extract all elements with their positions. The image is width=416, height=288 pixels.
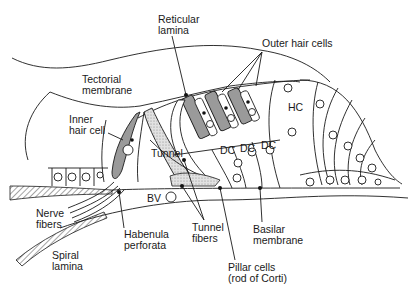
inner-sulcus-cells <box>48 168 108 186</box>
label-pillar-cells: Pillar cells (rod of Corti) <box>228 262 287 284</box>
label-dc-3: DC <box>261 140 276 151</box>
label-bv: BV <box>147 193 161 204</box>
label-tunnel: Tunnel <box>151 148 183 159</box>
label-outer-hair-cells: Outer hair cells <box>262 38 333 49</box>
label-inner-hair-cell: Inner hair cell <box>69 114 105 136</box>
label-dc-1: DC <box>220 145 235 156</box>
label-reticular-lamina: Reticular lamina <box>158 14 199 36</box>
label-habenula-perforata: Habenula perforata <box>124 229 169 251</box>
hensen-cells-region <box>284 80 402 186</box>
label-hc: HC <box>288 102 303 113</box>
label-tectorial-membrane: Tectorial membrane <box>82 74 132 96</box>
label-tunnel-fibers: Tunnel fibers <box>192 222 224 244</box>
label-nerve-fibers: Nerve fibers <box>36 208 64 230</box>
inner-hair-cell-shape <box>102 112 144 182</box>
organ-of-corti-diagram <box>0 0 416 288</box>
label-spiral-lamina: Spiral lamina <box>52 250 83 272</box>
label-dc-2: DC <box>240 143 255 154</box>
outer-hair-cells-shapes <box>181 87 260 139</box>
label-basilar-membrane: Basilar membrane <box>253 224 303 246</box>
